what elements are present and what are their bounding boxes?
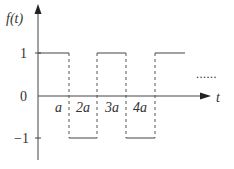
x-tick-label-3a: 3a — [104, 100, 119, 115]
x-tick-label-2a: 2a — [76, 100, 90, 115]
y-axis-arrow-icon — [35, 4, 42, 14]
x-axis-label: t — [216, 90, 221, 105]
y-tick-label-minus1: −1 — [14, 131, 29, 146]
square-wave-diagram: ...... f(t) t 1 0 −1 a 2a 3a 4a — [0, 0, 234, 169]
y-tick-label-0: 0 — [20, 89, 27, 104]
continuation-dots: ...... — [196, 67, 217, 81]
y-axis-label: f(t) — [6, 11, 23, 27]
y-tick-label-1: 1 — [20, 46, 27, 61]
x-tick-label-a: a — [55, 100, 62, 115]
x-axis-arrow-icon — [200, 93, 211, 100]
x-tick-label-4a: 4a — [133, 100, 147, 115]
